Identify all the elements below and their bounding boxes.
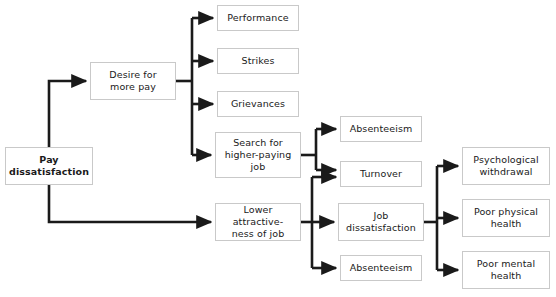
node-label: Desire for more pay <box>109 69 156 93</box>
node-performance[interactable]: Performance <box>217 5 299 31</box>
node-absenteeism-upper[interactable]: Absenteeism <box>340 116 422 142</box>
node-turnover[interactable]: Turnover <box>340 161 422 187</box>
node-job-dissatisfaction[interactable]: Job dissatisfaction <box>338 203 424 241</box>
node-label: Absenteeism <box>350 262 413 274</box>
node-search-higher-paying-job[interactable]: Search for higher-paying job <box>215 132 301 178</box>
edge-pay-to-desire <box>49 81 86 147</box>
node-label: Search for higher-paying job <box>225 137 292 173</box>
node-desire-for-more-pay[interactable]: Desire for more pay <box>90 62 176 100</box>
flowchart-canvas: Pay dissatisfaction Desire for more pay … <box>0 0 556 297</box>
node-grievances[interactable]: Grievances <box>217 91 299 117</box>
node-lower-attractiveness-of-job[interactable]: Lower attractive- ness of job <box>215 203 301 241</box>
node-label: Performance <box>227 12 288 24</box>
node-label: Poor mental health <box>477 258 535 282</box>
node-label: Poor physical health <box>474 206 538 230</box>
node-label: Lower attractive- ness of job <box>219 204 297 240</box>
node-label: Absenteeism <box>350 123 413 135</box>
node-psychological-withdrawal[interactable]: Psychological withdrawal <box>462 147 550 185</box>
edge-pay-to-lower-attractiveness <box>49 185 211 222</box>
node-label: Grievances <box>231 98 285 110</box>
node-pay-dissatisfaction[interactable]: Pay dissatisfaction <box>5 147 93 185</box>
node-label: Job dissatisfaction <box>346 210 416 234</box>
node-strikes[interactable]: Strikes <box>217 48 299 74</box>
node-poor-physical-health[interactable]: Poor physical health <box>462 199 550 237</box>
node-label: Pay dissatisfaction <box>9 154 89 178</box>
node-label: Turnover <box>360 168 402 180</box>
node-label: Strikes <box>242 55 275 67</box>
node-label: Psychological withdrawal <box>473 154 538 178</box>
node-absenteeism-lower[interactable]: Absenteeism <box>340 255 422 281</box>
node-poor-mental-health[interactable]: Poor mental health <box>462 251 550 289</box>
